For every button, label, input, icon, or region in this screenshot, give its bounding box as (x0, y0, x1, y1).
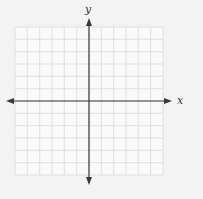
x-axis-label: x (177, 94, 184, 107)
y-axis-up-arrow-icon (86, 18, 92, 26)
x-axis-left-arrow-icon (6, 98, 14, 104)
coordinate-plane: x y (0, 0, 203, 199)
x-axis-right-arrow-icon (164, 98, 172, 104)
y-axis-down-arrow-icon (86, 177, 92, 185)
y-axis-label: y (84, 3, 92, 16)
